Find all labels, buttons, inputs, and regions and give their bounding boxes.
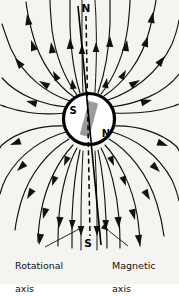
- axis-north-pole-label: N: [82, 2, 91, 14]
- field-arrowheads-upper-right: [93, 11, 168, 106]
- magnetic-axis-leader: [109, 231, 128, 246]
- field-arrowheads-upper-left: [12, 13, 85, 107]
- rotational-axis-caption-line1: Rotational: [15, 260, 63, 272]
- magnetic-axis-caption-line2: axis: [112, 283, 156, 295]
- rotational-axis-caption-line2: axis: [15, 283, 63, 295]
- magnet-south-pole-label: S: [69, 105, 76, 116]
- rotational-axis-leader: [45, 228, 81, 247]
- field-lines-upper-left: [0, 0, 83, 114]
- field-lines-upper-right: [95, 0, 179, 113]
- field-lines-lower-right: [95, 126, 179, 250]
- magnetic-axis-caption-line1: Magnetic: [112, 260, 156, 272]
- rotational-axis-caption: Rotational axis: [15, 248, 63, 296]
- axis-south-pole-label: S: [84, 237, 92, 249]
- magnetic-axis-caption: Magnetic axis: [112, 248, 156, 296]
- magnet-north-pole-label: N: [102, 128, 110, 139]
